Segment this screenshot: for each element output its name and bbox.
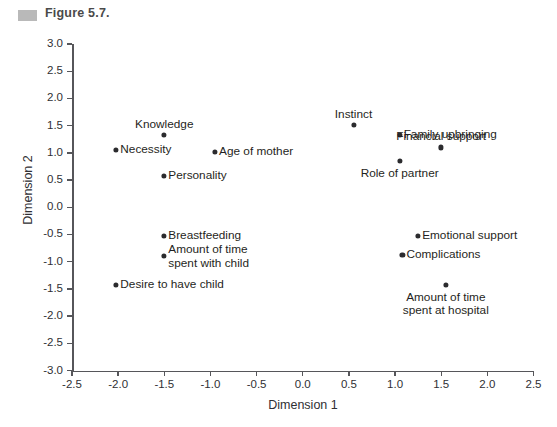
x-tick xyxy=(117,371,118,376)
data-point[interactable] xyxy=(351,122,356,127)
y-tick xyxy=(67,71,72,72)
y-tick-label: -3.0 xyxy=(33,364,63,376)
x-tick-label: -0.5 xyxy=(237,378,277,390)
y-tick-label: 2.0 xyxy=(33,91,63,103)
x-tick xyxy=(71,371,72,376)
x-tick xyxy=(487,371,488,376)
data-point[interactable] xyxy=(416,233,421,238)
x-tick xyxy=(533,371,534,376)
data-point-label: Role of partner xyxy=(361,167,439,181)
x-tick xyxy=(441,371,442,376)
x-tick xyxy=(348,371,349,376)
x-tick-label: 2.5 xyxy=(514,378,554,390)
x-tick xyxy=(302,371,303,376)
data-point[interactable] xyxy=(212,149,217,154)
x-tick xyxy=(256,371,257,376)
y-tick xyxy=(67,152,72,153)
data-point-label: Breastfeeding xyxy=(168,229,241,243)
data-point-label: Complications xyxy=(406,248,480,262)
y-tick xyxy=(67,288,72,289)
x-tick-label: -1.5 xyxy=(144,378,184,390)
y-tick-label: 3.0 xyxy=(33,37,63,49)
data-point-label: Personality xyxy=(168,169,226,183)
x-tick-label: 1.0 xyxy=(375,378,415,390)
y-axis-title: Dimension 2 xyxy=(21,120,35,260)
y-tick xyxy=(67,125,72,126)
y-tick xyxy=(67,207,72,208)
y-tick-label: -1.0 xyxy=(33,255,63,267)
x-tick-label: -2.5 xyxy=(52,378,92,390)
data-point-label: Desire to have child xyxy=(120,278,224,292)
data-point-label: Amount of time spent with child xyxy=(168,243,249,270)
data-point[interactable] xyxy=(114,282,119,287)
x-tick xyxy=(394,371,395,376)
x-tick-label: -1.0 xyxy=(190,378,230,390)
x-axis-title: Dimension 1 xyxy=(72,398,534,412)
y-tick-label: 0.0 xyxy=(33,200,63,212)
y-tick xyxy=(67,43,72,44)
data-point[interactable] xyxy=(439,145,444,150)
y-tick xyxy=(67,98,72,99)
x-tick xyxy=(210,371,211,376)
data-point-label: Emotional support xyxy=(422,229,517,243)
data-point[interactable] xyxy=(443,282,448,287)
y-tick xyxy=(67,179,72,180)
y-tick xyxy=(67,234,72,235)
y-tick-label: 1.5 xyxy=(33,119,63,131)
y-tick-label: -2.5 xyxy=(33,336,63,348)
data-point-label: Age of mother xyxy=(219,145,293,159)
y-tick-label: 0.5 xyxy=(33,173,63,185)
y-tick-label: -0.5 xyxy=(33,227,63,239)
y-tick-label: -1.5 xyxy=(33,282,63,294)
y-axis-line xyxy=(72,44,74,372)
x-tick-label: -2.0 xyxy=(98,378,138,390)
data-point-label: Necessity xyxy=(120,143,171,157)
y-tick-label: 2.5 xyxy=(33,64,63,76)
data-point[interactable] xyxy=(400,253,405,258)
data-point[interactable] xyxy=(162,173,167,178)
data-point-label: Amount of time spent at hospital xyxy=(403,291,489,318)
data-point[interactable] xyxy=(162,132,167,137)
y-tick xyxy=(67,343,72,344)
y-tick xyxy=(67,261,72,262)
data-point-label: Instinct xyxy=(335,108,372,122)
data-point-label: Knowledge xyxy=(135,118,193,132)
x-tick-label: 2.0 xyxy=(467,378,507,390)
y-tick xyxy=(67,315,72,316)
data-point[interactable] xyxy=(114,148,119,153)
data-point[interactable] xyxy=(162,254,167,259)
x-tick-label: 1.5 xyxy=(421,378,461,390)
data-point-label: Financial support xyxy=(396,130,486,144)
data-point[interactable] xyxy=(162,233,167,238)
scatter-plot: 3.02.52.01.51.00.50.0-0.5-1.0-1.5-2.0-2.… xyxy=(0,0,557,427)
x-tick xyxy=(164,371,165,376)
y-tick-label: 1.0 xyxy=(33,146,63,158)
x-tick-label: 0.5 xyxy=(329,378,369,390)
x-tick-label: 0.0 xyxy=(283,378,323,390)
y-tick-label: -2.0 xyxy=(33,309,63,321)
data-point[interactable] xyxy=(397,158,402,163)
